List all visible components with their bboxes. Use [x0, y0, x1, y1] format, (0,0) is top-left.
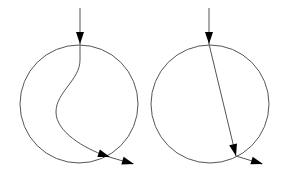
circle [20, 45, 138, 163]
arrowhead-icon [250, 157, 264, 168]
arrowhead-icon [121, 157, 135, 168]
arrowhead-icon [76, 32, 84, 44]
arrowhead-icon [229, 143, 240, 157]
panel-straight-path [151, 8, 269, 168]
ray-path [209, 8, 262, 164]
panel-curved-path [20, 8, 138, 168]
diagram-canvas [0, 0, 283, 176]
circle [151, 45, 269, 163]
arrowheads [205, 32, 264, 168]
ray-path [56, 8, 133, 164]
arrowheads [76, 32, 135, 168]
arrowhead-icon [205, 32, 213, 44]
